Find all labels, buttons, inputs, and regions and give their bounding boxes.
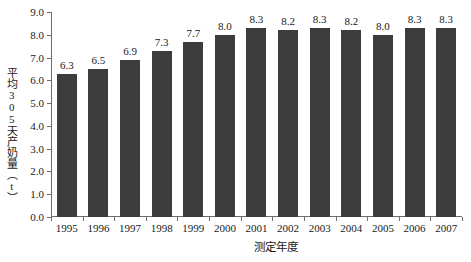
y-axis-tick-mark [47, 58, 51, 59]
bar-group: 8.3 [430, 12, 462, 217]
bar-value-label: 6.3 [60, 59, 74, 71]
x-axis-tick-labels: 1995199619971998199920002001200220032004… [51, 221, 462, 237]
bar-group: 7.3 [146, 12, 178, 217]
y-axis-tick-label: 5.0 [18, 97, 44, 109]
bar-group: 8.2 [336, 12, 368, 217]
bar-group: 8.2 [272, 12, 304, 217]
bar [120, 60, 140, 217]
x-axis-tick-label: 2005 [372, 221, 394, 235]
bar-value-label: 6.9 [123, 45, 137, 57]
bar [215, 35, 235, 217]
bar-value-label: 8.3 [408, 13, 422, 25]
bar-group: 8.0 [209, 12, 241, 217]
y-axis-tick-mark [47, 80, 51, 81]
x-axis-tick-label: 2000 [214, 221, 236, 235]
y-axis-tick-mark [47, 171, 51, 172]
x-axis-tick-label: 1996 [87, 221, 109, 235]
bar [152, 51, 172, 217]
bar-group: 8.0 [367, 12, 399, 217]
y-axis-tick-label: 3.0 [18, 143, 44, 155]
bar [436, 28, 456, 217]
y-axis-tick-mark [47, 103, 51, 104]
y-axis-tick-label: 7.0 [18, 52, 44, 64]
y-axis-tick-mark [47, 194, 51, 195]
y-axis-tick-label: 8.0 [18, 29, 44, 41]
bar [278, 30, 298, 217]
y-axis-tick-mark [47, 126, 51, 127]
y-axis-tick-label: 2.0 [18, 165, 44, 177]
bar [405, 28, 425, 217]
x-axis-tick-mark [462, 217, 463, 221]
bar-value-label: 6.5 [92, 54, 106, 66]
bar-value-label: 8.0 [376, 20, 390, 32]
bar-value-label: 8.3 [250, 13, 264, 25]
x-axis-tick-label: 2004 [340, 221, 362, 235]
bar-value-label: 8.0 [218, 20, 232, 32]
x-axis-tick-label: 2001 [246, 221, 268, 235]
x-axis-tick-label: 1999 [182, 221, 204, 235]
y-axis-tick-label: 4.0 [18, 120, 44, 132]
bar-group: 6.3 [51, 12, 83, 217]
y-axis-tick-mark [47, 12, 51, 13]
bar [246, 28, 266, 217]
bar-value-label: 8.2 [344, 15, 358, 27]
bar-group: 8.3 [304, 12, 336, 217]
bar [373, 35, 393, 217]
plot-area: 6.36.56.97.37.78.08.38.28.38.28.08.38.3 [51, 12, 462, 217]
x-axis-tick-label: 1997 [119, 221, 141, 235]
y-axis-tick-label: 0.0 [18, 211, 44, 223]
y-axis-tick-label: 9.0 [18, 6, 44, 18]
x-axis-tick-label: 2006 [404, 221, 426, 235]
bar-value-label: 8.3 [439, 13, 453, 25]
bar-value-label: 7.3 [155, 36, 169, 48]
x-axis-tick-label: 2007 [435, 221, 457, 235]
bar-value-label: 8.3 [313, 13, 327, 25]
y-axis-tick-labels: 0.01.02.03.04.05.06.07.08.09.0 [18, 6, 47, 218]
bar [341, 30, 361, 217]
bar [183, 42, 203, 217]
bar-group: 8.3 [399, 12, 431, 217]
bar-group: 7.7 [177, 12, 209, 217]
y-axis-tick-label: 1.0 [18, 188, 44, 200]
bar-group: 6.9 [114, 12, 146, 217]
bar-group: 6.5 [83, 12, 115, 217]
y-axis-tick-mark [47, 149, 51, 150]
bar [57, 74, 77, 218]
bar [88, 69, 108, 217]
y-axis-tick-mark [47, 35, 51, 36]
bar-value-label: 7.7 [186, 27, 200, 39]
x-axis-title: 测定年度 [0, 240, 471, 254]
x-axis-tick-label: 1995 [56, 221, 78, 235]
bar-chart: 平均305天产奶量（t） 0.01.02.03.04.05.06.07.08.0… [0, 0, 471, 262]
x-axis-tick-label: 1998 [151, 221, 173, 235]
bar [310, 28, 330, 217]
x-axis-tick-label: 2002 [277, 221, 299, 235]
bar-value-label: 8.2 [281, 15, 295, 27]
bar-group: 8.3 [241, 12, 273, 217]
bars-layer: 6.36.56.97.37.78.08.38.28.38.28.08.38.3 [51, 12, 462, 217]
y-axis-tick-label: 6.0 [18, 74, 44, 86]
x-axis-tick-label: 2003 [309, 221, 331, 235]
